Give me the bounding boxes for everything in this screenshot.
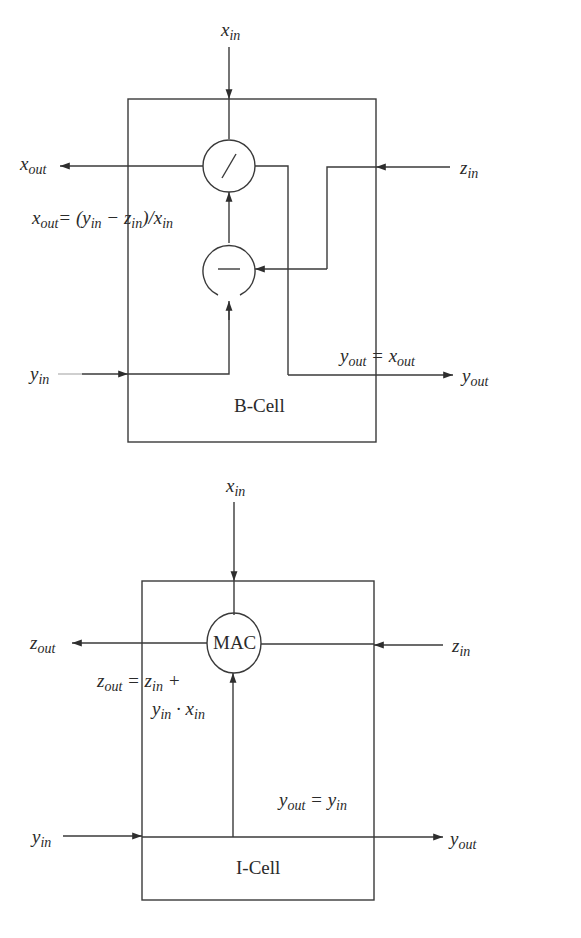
mac-label: MAC [213, 633, 256, 652]
b-cell-title: B-Cell [234, 396, 285, 415]
b-xout-equation: xout= (yin − zin)/xin [32, 208, 173, 231]
b-cell-box [128, 99, 376, 442]
subtract-circle [203, 245, 255, 295]
i-zout-equation-line2: yin · xin [152, 699, 205, 722]
i-yin-label: yin [32, 827, 51, 850]
b-zin-label: zin [460, 158, 478, 181]
b-yin-label: yin [30, 364, 49, 387]
i-xin-label: xin [226, 476, 245, 499]
b-xout-label: xout [20, 154, 46, 177]
i-cell-title: I-Cell [236, 858, 280, 877]
b-xin-label: xin [221, 20, 240, 43]
divide-slash [222, 154, 236, 178]
b-yout-label: yout [462, 366, 488, 389]
i-zin-label: zin [452, 636, 470, 659]
b-yout-equation: yout = xout [340, 346, 415, 369]
i-zout-equation-line1: zout = zin + [97, 671, 180, 694]
i-yout-label: yout [450, 829, 476, 852]
b-yout-path [255, 166, 288, 375]
i-zout-label: zout [30, 633, 55, 656]
i-yout-equation: yout = yin [279, 790, 347, 813]
